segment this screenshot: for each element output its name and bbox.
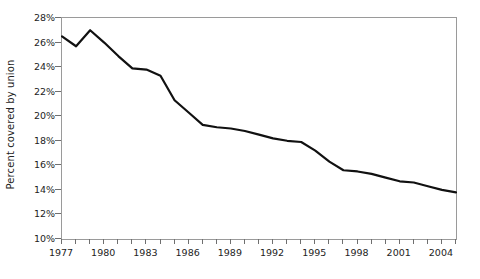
x-axis-tick-mark (371, 239, 372, 244)
x-axis-tick-mark (286, 239, 287, 244)
x-axis-tick-mark (131, 239, 132, 244)
union-coverage-line-chart: Percent covered by union 28%26%24%22%20%… (0, 0, 480, 279)
x-axis-tick-label: 1992 (260, 247, 284, 258)
x-axis-tick-mark (314, 239, 315, 244)
y-axis-tick-label: 22% (34, 85, 55, 96)
plot-area (61, 17, 457, 240)
x-axis-tick-label: 1998 (344, 247, 368, 258)
x-axis-tick-mark (441, 239, 442, 244)
y-axis-tick-label: 20% (34, 110, 55, 121)
x-axis-tick-mark (117, 239, 118, 244)
x-axis-tick-label: 1995 (302, 247, 326, 258)
x-axis-tick-mark (202, 239, 203, 244)
x-axis-tick-mark (399, 239, 400, 244)
x-axis-tick-mark (230, 239, 231, 244)
x-axis-tick-mark (385, 239, 386, 244)
x-axis-tick-mark (328, 239, 329, 244)
x-axis-tick-labels: 1977198019831986198919921995199820012004 (0, 247, 480, 267)
x-axis-tick-mark (103, 239, 104, 244)
y-axis-tick-label: 26% (34, 36, 55, 47)
x-axis-tick-label: 1977 (49, 247, 73, 258)
y-axis-tick-label: 16% (34, 159, 55, 170)
x-axis-tick-label: 2001 (387, 247, 411, 258)
x-axis-tick-mark (216, 239, 217, 244)
x-axis-tick-mark (188, 239, 189, 244)
x-axis-tick-mark (427, 239, 428, 244)
x-axis-tick-mark (160, 239, 161, 244)
x-axis-tick-label: 1980 (91, 247, 115, 258)
x-axis-tick-mark (357, 239, 358, 244)
y-axis-label: Percent covered by union (6, 59, 17, 189)
y-axis-tick-label: 18% (34, 134, 55, 145)
y-axis-tick-label: 24% (34, 61, 55, 72)
x-axis-tick-mark (174, 239, 175, 244)
x-axis-tick-label: 1989 (218, 247, 242, 258)
x-axis-tick-label: 2004 (429, 247, 453, 258)
y-axis-tick-label: 10% (34, 233, 55, 244)
y-axis-tick-label: 28% (34, 12, 55, 23)
x-axis-tick-mark (244, 239, 245, 244)
x-axis-tick-mark (413, 239, 414, 244)
y-axis-tick-labels: 28%26%24%22%20%18%16%14%12%10% (22, 0, 58, 279)
x-axis-tick-mark (145, 239, 146, 244)
x-axis-tick-mark (455, 239, 456, 244)
x-axis-tick-mark (75, 239, 76, 244)
x-axis-tick-mark (61, 239, 62, 244)
x-axis-tick-mark (89, 239, 90, 244)
x-axis-tick-mark (300, 239, 301, 244)
series-polyline (62, 30, 456, 192)
x-axis-tick-mark (272, 239, 273, 244)
y-axis-label-container: Percent covered by union (0, 0, 22, 248)
x-axis-tick-mark (342, 239, 343, 244)
y-axis-tick-label: 14% (34, 183, 55, 194)
y-axis-tick-label: 12% (34, 208, 55, 219)
x-axis-tick-label: 1986 (176, 247, 200, 258)
series-line (62, 18, 456, 239)
x-axis-tick-marks (61, 239, 457, 246)
x-axis-tick-label: 1983 (133, 247, 157, 258)
x-axis-tick-mark (258, 239, 259, 244)
